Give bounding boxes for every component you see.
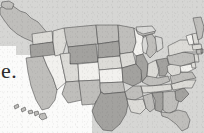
state-north-dakota xyxy=(96,25,119,44)
state-new-jersey xyxy=(194,54,199,62)
caption-fragment: e. xyxy=(1,60,17,82)
state-minnesota xyxy=(118,25,136,54)
state-south-carolina xyxy=(175,88,189,102)
state-arkansas xyxy=(125,86,143,100)
state-louisiana xyxy=(127,99,146,114)
us-choropleth-map xyxy=(0,0,204,133)
state-rhode-island xyxy=(201,49,203,53)
state-montana xyxy=(64,25,98,47)
state-colorado xyxy=(78,62,100,81)
state-florida xyxy=(161,110,190,131)
state-nebraska xyxy=(98,56,122,70)
state-arizona xyxy=(62,81,82,103)
state-wyoming xyxy=(68,44,98,64)
map-image: e. xyxy=(0,0,204,133)
state-south-dakota xyxy=(98,41,120,58)
state-kansas xyxy=(99,68,123,83)
